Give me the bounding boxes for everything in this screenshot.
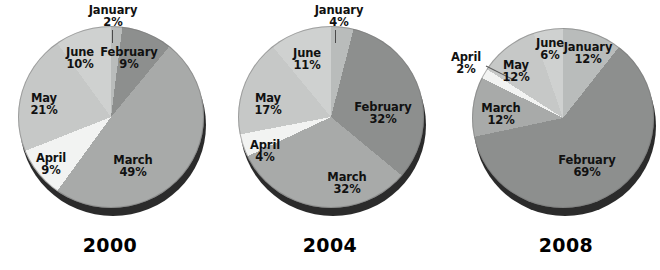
slice-label-april: April 2% (442, 52, 490, 76)
slice-label-june-pct: 10% (58, 59, 102, 71)
slice-label-may: May 17% (246, 93, 290, 117)
slice-label-april-pct: 2% (442, 64, 490, 76)
slice-label-march: March 12% (472, 103, 530, 127)
slice-label-february: February 9% (98, 47, 160, 71)
slice-label-january-pct: 2% (78, 17, 148, 29)
slice-label-june: June 10% (58, 47, 102, 71)
slice-label-february-pct: 32% (348, 114, 418, 126)
january-leader-line (112, 30, 113, 43)
slice-label-march-pct: 12% (472, 115, 530, 127)
slice-label-march: March 49% (104, 155, 162, 179)
january-leader-line (335, 30, 336, 43)
slice-label-march-pct: 32% (318, 184, 376, 196)
slice-label-april-pct: 9% (27, 165, 75, 177)
chart-year-label: 2004 (220, 234, 440, 256)
slice-label-january-pct: 4% (304, 17, 374, 29)
slice-label-may: May 12% (494, 60, 538, 84)
slice-label-february: February 69% (552, 155, 622, 179)
pie-chart-2000: January 2% February 9% March 49% April 9… (0, 0, 220, 270)
slice-label-may: May 21% (22, 93, 66, 117)
slice-label-february-pct: 9% (98, 59, 160, 71)
slice-label-march: March 32% (318, 172, 376, 196)
slice-label-february: February 32% (348, 102, 418, 126)
pie-chart-2004: January 4% February 32% March 32% April … (220, 0, 440, 270)
slice-label-may-pct: 21% (22, 105, 66, 117)
slice-label-april: April 4% (241, 140, 289, 164)
slice-label-june: June 11% (285, 48, 329, 72)
chart-year-label: 2008 (456, 234, 660, 256)
pie-chart-group: January 2% February 9% March 49% April 9… (0, 0, 660, 270)
slice-label-april-pct: 4% (241, 152, 289, 164)
slice-label-march-pct: 49% (104, 167, 162, 179)
slice-label-june: June 6% (528, 38, 572, 62)
slice-label-may-pct: 17% (246, 105, 290, 117)
slice-label-may-pct: 12% (494, 72, 538, 84)
chart-year-label: 2000 (0, 234, 220, 256)
slice-label-june-pct: 11% (285, 60, 329, 72)
pie-chart-2008: January 12% February 69% March 12% April… (440, 0, 660, 270)
slice-label-january: January 2% (78, 5, 148, 29)
slice-label-april: April 9% (27, 153, 75, 177)
slice-label-june-pct: 6% (528, 50, 572, 62)
slice-label-february-pct: 69% (552, 167, 622, 179)
slice-label-january: January 4% (304, 5, 374, 29)
